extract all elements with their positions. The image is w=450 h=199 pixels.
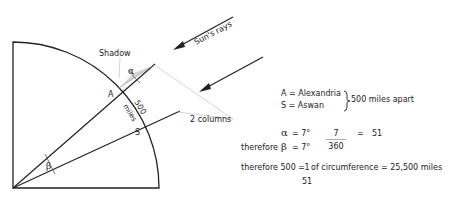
fraction-numerator: 7 [326, 129, 346, 139]
point-s-label: S [135, 128, 140, 137]
alpha-label: α [128, 66, 134, 76]
eq-equals: = [357, 129, 364, 139]
fraction-7-over-360: 7 360 [326, 129, 346, 152]
legend-a: A = Alexandria [281, 89, 341, 99]
arrowhead-icon [199, 83, 211, 92]
eq-alpha: α [281, 128, 288, 138]
sun-ray-2 [202, 57, 263, 90]
earth-quarter-circle [13, 42, 159, 188]
shadow-label: Shadow [99, 49, 131, 58]
eq-circumference: of circumference = 25,500 miles [311, 163, 442, 173]
eq-result-51: 51 [372, 129, 382, 139]
legend-apart: 500 miles apart [351, 95, 414, 105]
beta-label: β [46, 161, 51, 171]
shadow-leader [119, 58, 120, 78]
fraction-denominator: 51 [302, 173, 312, 187]
brace-icon [344, 91, 350, 111]
radius-aswan [13, 111, 180, 188]
eq-beta-value: = 7° [292, 143, 310, 153]
suns-rays-label: Sun's rays [193, 19, 234, 46]
columns-leader-1 [156, 66, 233, 119]
columns-label: 2 columns [190, 115, 231, 124]
legend-s: S = Aswan [281, 101, 324, 111]
eq-beta: β [281, 142, 287, 152]
fraction-denominator: 360 [326, 139, 346, 152]
radius-alexandria [13, 64, 155, 188]
arrowhead-icon [173, 41, 185, 50]
eq-therefore-2: therefore 500 = [241, 163, 305, 173]
eq-therefore-1: therefore [241, 143, 278, 153]
point-a-label: A [108, 90, 114, 99]
eq-alpha-value: = 7° [292, 129, 310, 139]
